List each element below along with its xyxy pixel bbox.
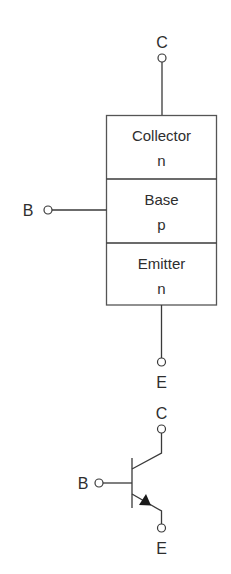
emitter-region-name: Emitter — [138, 255, 186, 272]
block-base-terminal-label: B — [23, 202, 34, 219]
symbol-collector-lead — [132, 433, 162, 469]
symbol-emitter-terminal-label: E — [156, 540, 167, 557]
block-diagram: C Collector n Base p Emitter n B E — [23, 34, 217, 391]
block-emitter-terminal-icon — [158, 358, 166, 366]
symbol-base-terminal-label: B — [78, 475, 89, 492]
npn-transistor-diagram: C Collector n Base p Emitter n B E C — [0, 0, 231, 574]
block-emitter-terminal-label: E — [156, 374, 167, 391]
block-collector-terminal-icon — [158, 54, 166, 62]
symbol-collector-terminal-icon — [158, 425, 166, 433]
base-region-doping: p — [157, 216, 165, 233]
emitter-region-doping: n — [157, 280, 165, 297]
base-region-name: Base — [144, 191, 178, 208]
collector-region-doping: n — [157, 152, 165, 169]
symbol-collector-terminal-label: C — [156, 405, 168, 422]
block-base-terminal-icon — [44, 206, 52, 214]
npn-schematic-symbol: C B E — [78, 405, 168, 557]
symbol-base-terminal-icon — [95, 479, 103, 487]
block-collector-terminal-label: C — [156, 34, 168, 51]
symbol-emitter-terminal-icon — [158, 524, 166, 532]
collector-region-name: Collector — [132, 127, 191, 144]
